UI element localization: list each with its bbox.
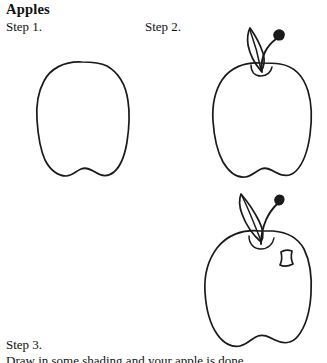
step-3-label: Step 3. (6, 337, 42, 352)
step-1-label: Step 1. (6, 19, 42, 34)
apple-highlight-shine-path (280, 250, 293, 266)
apple-outline-drawing (20, 50, 150, 190)
apple-with-highlight-figure (188, 188, 327, 353)
apple-body-path (37, 62, 129, 176)
apple-bud-knob-path (275, 195, 284, 205)
apple-body-path (213, 63, 312, 177)
apple-with-stem-drawing (200, 22, 327, 187)
apple-with-stem-figure (200, 22, 327, 187)
apple-with-highlight-drawing (188, 188, 327, 353)
apple-outline-figure (20, 50, 150, 190)
step-2-label: Step 2. (145, 19, 181, 34)
cut-off-caption: Draw in some shading and your apple is d… (6, 353, 247, 363)
apple-bud-knob-path (274, 30, 285, 40)
page-title: Apples (6, 1, 50, 17)
tutorial-page: Apples Step 1. Step 2. Step 3. (0, 0, 327, 363)
